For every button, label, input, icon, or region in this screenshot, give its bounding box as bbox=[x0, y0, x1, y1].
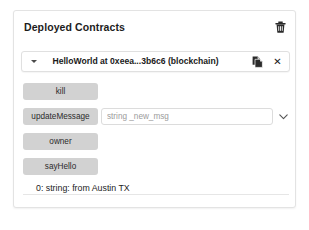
function-output-value: 0: string: from Austin TX bbox=[36, 183, 130, 193]
chevron-down-icon[interactable] bbox=[275, 108, 291, 125]
function-row: updateMessage bbox=[23, 108, 291, 125]
trash-icon[interactable] bbox=[273, 19, 287, 34]
function-button-sayHello[interactable]: sayHello bbox=[23, 158, 98, 175]
close-icon[interactable]: ✕ bbox=[272, 56, 283, 68]
function-button-kill[interactable]: kill bbox=[23, 83, 98, 100]
instance-actions: ✕ bbox=[252, 52, 283, 71]
function-row: kill bbox=[23, 83, 291, 100]
page-title: Deployed Contracts bbox=[24, 21, 125, 33]
function-row: owner bbox=[23, 133, 291, 150]
deployed-contracts-screen: Deployed Contracts HelloWorld at 0xeea..… bbox=[0, 0, 309, 230]
deployed-contracts-panel: Deployed Contracts HelloWorld at 0xeea..… bbox=[13, 10, 296, 208]
contract-instance-header[interactable]: HelloWorld at 0xeea...3b6c6 (blockchain)… bbox=[21, 51, 290, 72]
panel-header: Deployed Contracts bbox=[14, 11, 295, 44]
function-button-updateMessage[interactable]: updateMessage bbox=[23, 108, 98, 125]
function-row: sayHello bbox=[23, 158, 291, 175]
copy-icon[interactable] bbox=[252, 56, 263, 68]
panel-divider bbox=[23, 194, 289, 195]
function-button-owner[interactable]: owner bbox=[23, 133, 98, 150]
contract-instance-label: HelloWorld at 0xeea...3b6c6 (blockchain) bbox=[22, 52, 289, 71]
function-input-updateMessage[interactable] bbox=[101, 108, 273, 125]
contract-function-list: kill updateMessage owner sayHello bbox=[23, 83, 291, 183]
close-icon-glyph: ✕ bbox=[273, 57, 281, 67]
